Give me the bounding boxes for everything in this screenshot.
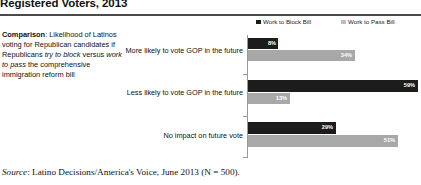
- bar-value-more-likely-block: 8%: [268, 41, 278, 47]
- bar-no-impact-pass: 51%: [248, 135, 398, 147]
- title-divider: [0, 14, 421, 16]
- caption-emphasis-1: try to block: [45, 50, 81, 59]
- source-text: : Latino Decisions/America's Voice, June…: [27, 167, 240, 177]
- axis-tick-1: [243, 74, 247, 75]
- source-note: Source: Latino Decisions/America's Voice…: [2, 167, 240, 177]
- legend-swatch-icon-block: [256, 20, 261, 25]
- bar-value-more-likely-pass: 34%: [341, 53, 355, 59]
- legend-item-work-to-pass-bill: Work to Pass Bill: [341, 19, 395, 25]
- bar-less-likely-pass: 13%: [248, 93, 290, 104]
- source-prefix: Source: [2, 167, 27, 177]
- bar-more-likely-block: 8%: [248, 38, 278, 49]
- bar-value-no-impact-pass: 51%: [384, 138, 398, 144]
- bar-value-less-likely-pass: 13%: [276, 96, 290, 102]
- caption-lead: Comparison: [2, 30, 45, 39]
- bar-value-less-likely-block: 59%: [404, 83, 418, 89]
- bar-no-impact-block: 29%: [248, 122, 336, 134]
- comparison-caption: Comparison: Likelihood of Latinos voting…: [2, 30, 124, 80]
- bar-less-likely-block: 59%: [248, 80, 418, 92]
- bar-more-likely-pass: 34%: [248, 50, 355, 61]
- legend-item-work-to-block-bill: Work to Block Bill: [256, 19, 311, 25]
- bar-chart: More likely to vote GOP in the future 8%…: [126, 33, 421, 160]
- axis-tick-3: [243, 157, 247, 158]
- caption-part-2: versus: [80, 50, 106, 59]
- category-label-no-impact: No impact on future vote: [164, 132, 244, 139]
- legend-label-block: Work to Block Bill: [263, 19, 311, 25]
- category-label-less-likely: Less likely to vote GOP in the future: [127, 89, 243, 96]
- legend-swatch-icon-pass: [341, 20, 346, 25]
- legend-label-pass: Work to Pass Bill: [348, 19, 395, 25]
- bar-value-no-impact-block: 29%: [322, 125, 336, 131]
- chart-legend: Work to Block Bill Work to Pass Bill: [256, 19, 421, 31]
- page-title: Registered Voters, 2013: [0, 0, 421, 9]
- axis-tick-2: [243, 116, 247, 117]
- category-label-more-likely: More likely to vote GOP in the future: [126, 47, 243, 54]
